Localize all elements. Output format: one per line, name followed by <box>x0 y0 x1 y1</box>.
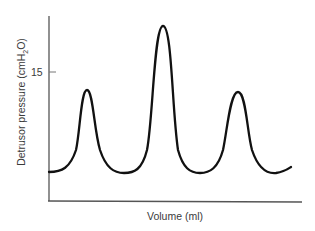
y-tick-label-15: 15 <box>31 66 43 78</box>
y-axis-label: Detrusor pressure (cmH2O) <box>15 38 29 166</box>
chart-canvas <box>0 0 315 231</box>
pressure-curve <box>49 26 291 173</box>
x-axis <box>48 201 302 202</box>
x-axis-label: Volume (ml) <box>147 210 203 222</box>
